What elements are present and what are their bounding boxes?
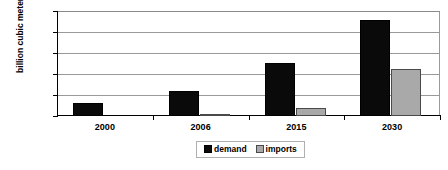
legend-label-demand: demand	[214, 144, 247, 154]
bar-imports-2006	[200, 114, 230, 116]
x-tick-mark	[344, 116, 345, 120]
bar-groups	[57, 11, 440, 116]
bar-demand-2000	[73, 103, 103, 116]
x-tick-label-2015: 2015	[261, 122, 331, 132]
x-tick-mark	[153, 116, 154, 120]
legend-item-demand: demand	[204, 144, 247, 154]
bar-group	[57, 11, 153, 116]
bar-group	[249, 11, 345, 116]
legend-label-imports: imports	[266, 144, 297, 154]
bar-chart: billion cubic meters 050100150200250 200…	[0, 0, 448, 170]
x-tick-label-2030: 2030	[357, 122, 427, 132]
legend-swatch-imports-icon	[256, 145, 264, 153]
bar-demand-2015	[265, 63, 295, 116]
legend-swatch-demand-icon	[204, 145, 212, 153]
bar-imports-2015	[296, 108, 326, 116]
legend: demand imports	[196, 141, 305, 158]
legend-item-imports: imports	[256, 144, 297, 154]
x-tick-label-2000: 2000	[70, 122, 140, 132]
x-tick-label-2006: 2006	[166, 122, 236, 132]
bar-demand-2006	[169, 91, 199, 116]
x-tick-mark	[440, 116, 441, 120]
bar-imports-2030	[391, 69, 421, 116]
bar-group	[153, 11, 249, 116]
x-tick-mark	[249, 116, 250, 120]
bar-group	[344, 11, 440, 116]
y-axis-title: billion cubic meters	[15, 0, 25, 93]
bar-demand-2030	[360, 20, 390, 116]
